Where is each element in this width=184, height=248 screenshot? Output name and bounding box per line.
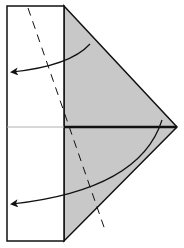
origami-diagram [0, 0, 184, 248]
gray-triangle-flap [64, 6, 177, 241]
white-rectangle-flap [7, 6, 64, 241]
